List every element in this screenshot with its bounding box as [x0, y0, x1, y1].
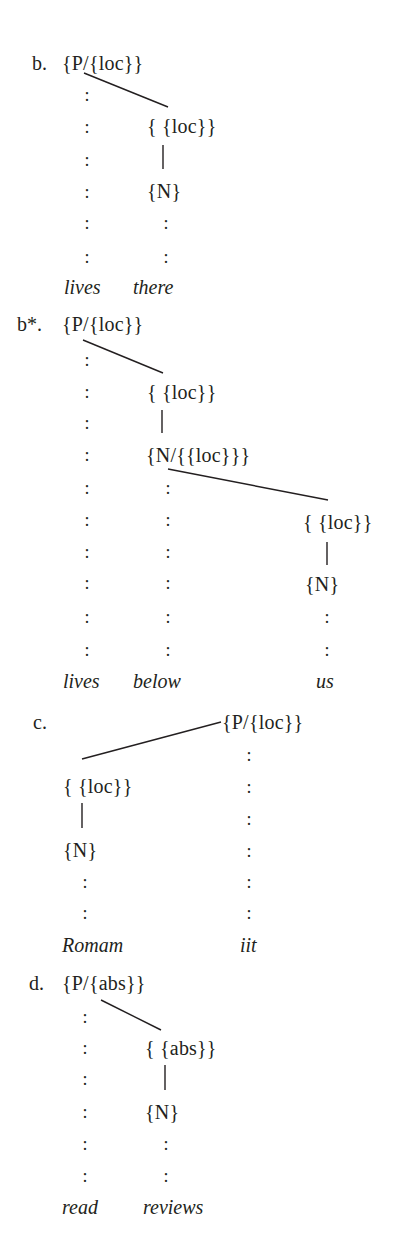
association-colon: :: [246, 746, 251, 764]
example-label: b.: [32, 53, 47, 73]
loc-node-2: { {loc}}: [303, 512, 372, 532]
association-colon: :: [163, 1167, 168, 1185]
edge-d-head-to-abs: [101, 1000, 161, 1030]
association-colon: :: [84, 446, 89, 464]
association-colon: :: [82, 873, 87, 891]
example-label: d.: [29, 973, 44, 993]
head-node: {P/{abs}}: [62, 973, 146, 993]
association-colon: :: [163, 248, 168, 266]
association-colon: :: [84, 414, 89, 432]
association-colon: :: [82, 1008, 87, 1026]
edge-b-head-to-loc: [84, 73, 168, 107]
loc-node: { {loc}}: [147, 116, 216, 136]
association-colon: :: [84, 383, 89, 401]
association-colon: :: [84, 118, 89, 136]
example-label: c.: [33, 712, 47, 732]
association-colon: :: [84, 543, 89, 561]
loc-node: { {loc}}: [147, 382, 216, 402]
word-lives: lives: [64, 277, 101, 297]
association-colon: :: [84, 574, 89, 592]
word-below: below: [133, 671, 181, 691]
association-colon: :: [165, 574, 170, 592]
association-colon: :: [84, 608, 89, 626]
example-label: b*.: [17, 314, 42, 334]
association-colon: :: [84, 511, 89, 529]
association-colon: :: [246, 778, 251, 796]
word-there: there: [133, 277, 173, 297]
n-node: {N}: [305, 574, 339, 594]
association-colon: :: [84, 86, 89, 104]
word-lives: lives: [63, 671, 100, 691]
head-node: {P/{loc}}: [62, 314, 143, 334]
edge-c-head-to-loc: [82, 722, 221, 759]
association-colon: :: [84, 151, 89, 169]
n-node: {N}: [147, 181, 181, 201]
word-reviews: reviews: [143, 1197, 203, 1217]
association-colon: :: [163, 214, 168, 232]
association-colon: :: [84, 183, 89, 201]
association-colon: :: [82, 1167, 87, 1185]
association-colon: :: [163, 1135, 168, 1153]
association-colon: :: [82, 1135, 87, 1153]
edge-bstar-head-to-loc: [83, 340, 163, 373]
association-colon: :: [82, 1103, 87, 1121]
association-colon: :: [246, 842, 251, 860]
association-colon: :: [82, 1039, 87, 1057]
n-node: {N}: [63, 840, 97, 860]
association-colon: :: [324, 608, 329, 626]
association-colon: :: [246, 810, 251, 828]
abs-node: { {abs}}: [145, 1038, 217, 1058]
association-colon: :: [246, 904, 251, 922]
word-iit: iit: [240, 935, 257, 955]
n-node: {N}: [145, 1102, 179, 1122]
association-colon: :: [165, 641, 170, 659]
word-read: read: [62, 1197, 98, 1217]
association-colon: :: [246, 873, 251, 891]
association-colon: :: [84, 479, 89, 497]
head-node: {P/{loc}}: [62, 53, 143, 73]
association-colon: :: [165, 543, 170, 561]
association-colon: :: [84, 351, 89, 369]
association-colon: :: [165, 511, 170, 529]
dependency-edges: [0, 0, 401, 1249]
edge-bstar-n-to-loc2: [168, 469, 328, 500]
association-colon: :: [84, 641, 89, 659]
association-colon: :: [165, 479, 170, 497]
word-romam: Romam: [62, 935, 123, 955]
association-colon: :: [165, 608, 170, 626]
head-node: {P/{loc}}: [222, 712, 303, 732]
loc-node: { {loc}}: [63, 776, 132, 796]
association-colon: :: [324, 641, 329, 659]
association-colon: :: [84, 214, 89, 232]
n-loc-node: {N/{{loc}}}: [146, 445, 250, 465]
association-colon: :: [82, 904, 87, 922]
association-colon: :: [82, 1070, 87, 1088]
word-us: us: [316, 671, 334, 691]
association-colon: :: [84, 248, 89, 266]
